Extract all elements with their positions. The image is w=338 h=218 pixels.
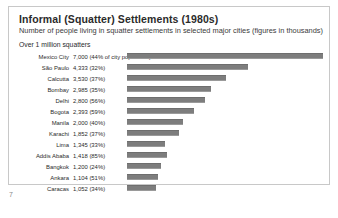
bar <box>127 75 226 81</box>
bar-row-city-label: Bombay <box>19 86 69 94</box>
bar-row-value-label: 1,052 (34%) <box>73 185 105 193</box>
bar <box>127 64 248 70</box>
bar-row-city-label: São Paulo <box>19 64 69 72</box>
bar <box>127 97 205 103</box>
bar <box>127 130 179 136</box>
bar-row-city-label: Bangkok <box>19 163 69 171</box>
chart-title: Informal (Squatter) Settlements (1980s) <box>19 13 323 25</box>
bar <box>127 86 211 92</box>
bar-chart-rows: Mexico City7,000 (44% of city population… <box>19 52 323 195</box>
bar-row: Karachi1,852 (37%) <box>19 129 323 140</box>
bar-track <box>127 86 323 93</box>
bar-row: Bogota2,393 (59%) <box>19 107 323 118</box>
bar-track <box>127 108 323 115</box>
bar-row-value-label: 1,200 (24%) <box>73 163 105 171</box>
bar-row-value-label: 1,345 (33%) <box>73 141 105 149</box>
bar-row-city-label: Addis Ababa <box>19 152 69 160</box>
bar-track <box>127 185 323 192</box>
bar-row: Bombay2,985 (35%) <box>19 85 323 96</box>
bar-row: Manila2,000 (40%) <box>19 118 323 129</box>
bar-row-value-label: 1,104 (51%) <box>73 174 105 182</box>
bar-row-city-label: Ankara <box>19 174 69 182</box>
bar-track <box>127 130 323 137</box>
bar-row-city-label: Caracas <box>19 185 69 193</box>
bar-track <box>127 53 323 60</box>
bar-row-city-label: Bogota <box>19 108 69 116</box>
bar-row: Caracas1,052 (34%) <box>19 184 323 195</box>
bar-row-value-label: 2,800 (56%) <box>73 97 105 105</box>
bar-row-city-label: Karachi <box>19 130 69 138</box>
bar-row: Ankara1,104 (51%) <box>19 173 323 184</box>
bar-row: Addis Ababa1,418 (85%) <box>19 151 323 162</box>
bar-row: Calcutta3,530 (37%) <box>19 74 323 85</box>
bar <box>127 108 194 114</box>
bar-row-value-label: 1,852 (37%) <box>73 130 105 138</box>
bar-row-value-label: 2,000 (40%) <box>73 119 105 127</box>
chart-panel-content: Informal (Squatter) Settlements (1980s) … <box>19 13 323 182</box>
bar <box>127 141 165 147</box>
bar <box>127 185 156 191</box>
bar-row: São Paulo4,333 (32%) <box>19 63 323 74</box>
bar-row: Bangkok1,200 (24%) <box>19 162 323 173</box>
bar-track <box>127 75 323 82</box>
bar-row-city-label: Mexico City <box>19 53 69 61</box>
bar <box>127 174 158 180</box>
bar-row-city-label: Lima <box>19 141 69 149</box>
page-canvas: Informal (Squatter) Settlements (1980s) … <box>0 0 338 218</box>
bar <box>127 119 183 125</box>
section-heading-over-1-million-squatters: Over 1 million squatters <box>19 40 323 49</box>
page-number: 7 <box>9 190 13 199</box>
bar-row: Mexico City7,000 (44% of city population… <box>19 52 323 63</box>
bar <box>127 163 161 169</box>
bar-row-value-label: 2,985 (35%) <box>73 86 105 94</box>
bar-row-city-label: Delhi <box>19 97 69 105</box>
bar-row: Lima1,345 (33%) <box>19 140 323 151</box>
bar-track <box>127 152 323 159</box>
bar-row-value-label: 1,418 (85%) <box>73 152 105 160</box>
bar <box>127 152 167 158</box>
chart-panel: Informal (Squatter) Settlements (1980s) … <box>8 6 330 185</box>
chart-subtitle: Number of people living in squatter sett… <box>19 26 323 36</box>
bar-row-city-label: Manila <box>19 119 69 127</box>
bar-track <box>127 97 323 104</box>
bar-track <box>127 141 323 148</box>
bar <box>127 53 323 59</box>
bar-track <box>127 163 323 170</box>
bar-row-city-label: Calcutta <box>19 75 69 83</box>
bar-track <box>127 174 323 181</box>
bar-row-value-label: 3,530 (37%) <box>73 75 105 83</box>
bar-track <box>127 119 323 126</box>
bar-row-value-label: 4,333 (32%) <box>73 64 105 72</box>
bar-track <box>127 64 323 71</box>
bar-row-value-label: 2,393 (59%) <box>73 108 105 116</box>
bar-row: Delhi2,800 (56%) <box>19 96 323 107</box>
